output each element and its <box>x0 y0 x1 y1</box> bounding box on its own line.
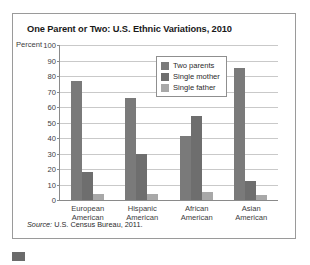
bar <box>202 192 213 200</box>
y-axis-label: Percent <box>16 40 42 49</box>
bar <box>147 194 158 200</box>
y-axis-tick-label: 100 <box>43 41 56 50</box>
y-axis-tick-label: 60 <box>48 103 56 112</box>
bar <box>71 81 82 200</box>
bar <box>93 194 104 200</box>
y-axis-tick-label: 70 <box>48 87 56 96</box>
legend-swatch-two-parents <box>161 62 169 70</box>
y-axis-tick-mark <box>57 154 60 155</box>
x-axis-label-line2: American <box>218 213 284 222</box>
legend-item: Two parents <box>161 60 220 71</box>
bar <box>125 98 136 200</box>
y-axis-tick-mark <box>57 138 60 139</box>
bar <box>245 181 256 200</box>
chart-legend: Two parents Single mother Single father <box>156 56 227 97</box>
y-axis-tick-mark <box>57 61 60 62</box>
source-text: U.S. Census Bureau, 2011. <box>52 220 142 229</box>
chart-title: One Parent or Two: U.S. Ethnic Variation… <box>27 24 232 34</box>
y-axis-tick-label: 30 <box>48 149 56 158</box>
legend-label-single-mother: Single mother <box>173 72 220 81</box>
y-axis-tick-label: 50 <box>48 118 56 127</box>
legend-item: Single father <box>161 82 220 93</box>
bar <box>136 154 147 201</box>
y-axis-tick-mark <box>57 107 60 108</box>
source-prefix: Source: <box>27 220 52 229</box>
y-axis-tick-mark <box>57 45 60 46</box>
y-axis-tick-mark <box>57 169 60 170</box>
y-axis-tick-label: 10 <box>48 180 56 189</box>
bar <box>234 68 245 200</box>
y-axis-tick-mark <box>57 185 60 186</box>
y-axis-tick-mark <box>57 200 60 201</box>
legend-swatch-single-mother <box>161 73 169 81</box>
source-note: Source: U.S. Census Bureau, 2011. <box>27 220 142 229</box>
bar <box>180 136 191 200</box>
gridline <box>60 200 278 201</box>
bar-group <box>71 45 104 200</box>
y-axis-tick-label: 20 <box>48 165 56 174</box>
y-axis-tick-mark <box>57 76 60 77</box>
y-axis-tick-label: 80 <box>48 72 56 81</box>
x-axis-label-line1: Asian <box>218 204 284 213</box>
bar <box>82 172 93 200</box>
corner-mark <box>12 252 25 261</box>
figure-frame: One Parent or Two: U.S. Ethnic Variation… <box>12 13 296 239</box>
legend-item: Single mother <box>161 71 220 82</box>
legend-label-single-father: Single father <box>173 83 216 92</box>
legend-swatch-single-father <box>161 84 169 92</box>
y-axis-tick-label: 90 <box>48 56 56 65</box>
x-axis-label: AsianAmerican <box>218 204 284 222</box>
y-axis-tick-mark <box>57 123 60 124</box>
bar-group <box>234 45 267 200</box>
legend-label-two-parents: Two parents <box>173 61 214 70</box>
bar-group <box>125 45 158 200</box>
y-axis-tick-label: 40 <box>48 134 56 143</box>
y-axis-tick-mark <box>57 92 60 93</box>
bar <box>256 195 267 200</box>
bar <box>191 116 202 200</box>
